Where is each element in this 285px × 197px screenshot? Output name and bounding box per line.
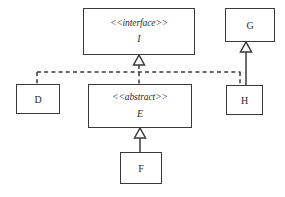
class-name-i: I <box>137 32 140 45</box>
class-box-f[interactable]: F <box>120 152 162 184</box>
generalization-arrowhead-to-g <box>241 42 252 52</box>
realization-arrowhead-to-interface-i <box>134 55 145 65</box>
class-box-e[interactable]: <<abstract>> E <box>88 84 192 128</box>
generalization-arrowhead-to-e <box>135 128 146 138</box>
class-name-h: H <box>241 94 248 107</box>
class-stereotype-i: <<interface>> <box>110 18 168 30</box>
class-box-h[interactable]: H <box>226 85 263 115</box>
class-name-f: F <box>138 162 144 175</box>
class-box-d[interactable]: D <box>16 84 60 114</box>
class-box-i[interactable]: <<interface>> I <box>83 8 195 55</box>
class-name-g: G <box>246 19 253 32</box>
class-box-g[interactable]: G <box>225 8 275 42</box>
class-name-e: E <box>137 107 143 120</box>
uml-class-diagram-canvas: <<interface>> I G D <<abstract>> E H F <box>0 0 285 197</box>
class-name-d: D <box>34 93 41 106</box>
class-stereotype-e: <<abstract>> <box>112 92 168 104</box>
